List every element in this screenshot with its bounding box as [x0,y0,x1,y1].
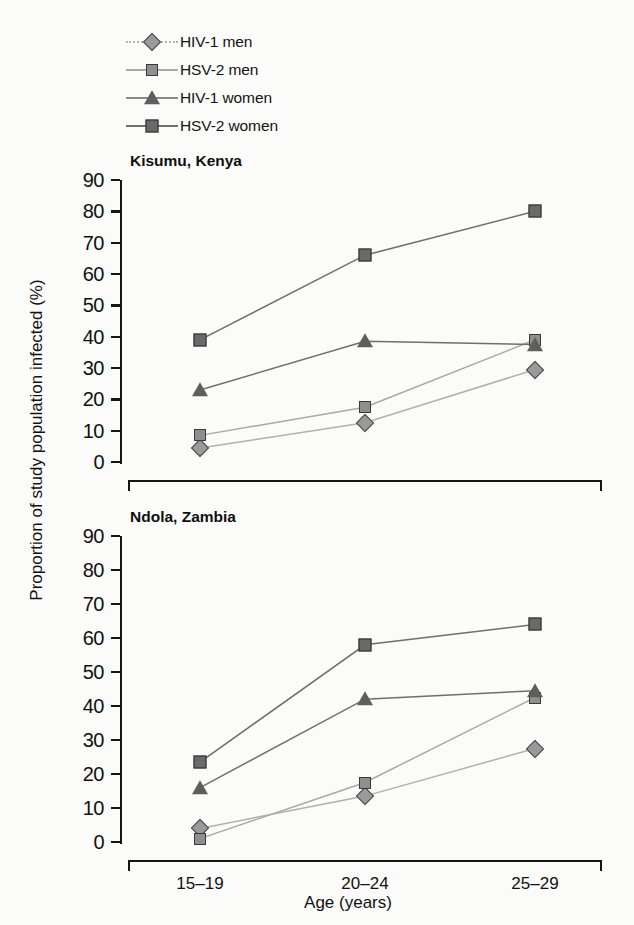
y-axis-tick-label: 70 [64,231,104,254]
datapoint-hiv-1-men-3 [526,360,544,378]
y-axis-tick [111,773,120,775]
y-axis-tick [111,461,120,463]
y-axis-tick-label: 80 [64,200,104,223]
datapoint-hsv-2-women-3 [529,618,542,631]
legend-item-hsv-2-women[interactable]: HSV-2 women [124,112,384,140]
x-axis-line [128,860,602,862]
y-axis-tick [111,179,120,181]
x-axis-end-cap [600,860,602,871]
x-axis-end-cap [128,860,130,871]
legend-marker-triangle-icon [144,90,160,104]
datapoint-hiv-1-women-2 [357,334,373,348]
y-axis-tick-label: 90 [64,169,104,192]
legend-key-1 [124,30,180,54]
y-axis-tick-label: 40 [64,325,104,348]
y-axis-tick [111,603,120,605]
legend-marker-square-icon [146,120,159,133]
y-axis-line [120,536,122,844]
y-axis-tick-label: 0 [64,831,104,854]
legend-marker-square-small-icon [146,64,158,76]
series-line-hsv-2-men [200,698,535,839]
y-axis-tick-label: 80 [64,559,104,582]
y-axis-tick [111,398,120,400]
panel-title-ndola: Ndola, Zambia [130,508,236,526]
legend-label: HIV-1 men [180,33,252,51]
x-axis-tick-label: 15–19 [145,874,255,894]
y-axis-line [120,180,122,464]
y-axis-tick-label: 10 [64,419,104,442]
y-axis-tick-label: 20 [64,763,104,786]
y-axis-tick [111,367,120,369]
legend-item-hiv-1-men[interactable]: HIV-1 men [124,28,384,56]
y-axis-tick [111,807,120,809]
legend-key-4 [124,114,180,138]
legend-item-hsv-2-men[interactable]: HSV-2 men [124,56,384,84]
y-axis-tick-label: 40 [64,695,104,718]
y-axis-tick-label: 20 [64,388,104,411]
y-axis-tick [111,336,120,338]
series-line-hiv-1-women [200,341,535,390]
y-axis-tick-label: 60 [64,627,104,650]
y-axis-tick-label: 50 [64,294,104,317]
datapoint-hsv-2-men-1 [194,833,206,845]
datapoint-hsv-2-men-1 [194,429,206,441]
y-axis-tick [111,210,120,212]
y-axis-tick [111,671,120,673]
panel-title-kisumu: Kisumu, Kenya [130,152,242,170]
chart-legend: HIV-1 menHSV-2 menHIV-1 womenHSV-2 women [124,28,384,140]
y-axis-tick [111,569,120,571]
datapoint-hiv-1-women-2 [357,691,373,705]
legend-key-2 [124,58,180,82]
y-axis-tick-label: 0 [64,451,104,474]
figure-root: HIV-1 menHSV-2 menHIV-1 womenHSV-2 women… [0,0,634,925]
x-axis-tick-label: 20–24 [310,874,420,894]
datapoint-hiv-1-men-2 [356,787,374,805]
y-axis-tick-label: 50 [64,661,104,684]
x-axis-end-cap [600,480,602,491]
datapoint-hiv-1-women-3 [527,683,543,697]
datapoint-hiv-1-women-1 [192,382,208,396]
y-axis-tick-label: 10 [64,797,104,820]
y-axis-tick [111,705,120,707]
datapoint-hsv-2-women-1 [194,333,207,346]
legend-key-3 [124,86,180,110]
y-axis-tick [111,242,120,244]
y-axis-tick [111,304,120,306]
y-axis-tick [111,535,120,537]
legend-label: HSV-2 women [180,117,278,135]
datapoint-hsv-2-men-2 [359,401,371,413]
y-axis-tick-label: 30 [64,357,104,380]
y-axis-tick [111,739,120,741]
y-axis-tick-label: 70 [64,593,104,616]
y-axis-tick-label: 90 [64,525,104,548]
y-axis-tick-label: 30 [64,729,104,752]
x-axis-tick-label: 25–29 [480,874,590,894]
legend-label: HSV-2 men [180,61,258,79]
datapoint-hsv-2-women-3 [529,205,542,218]
y-axis-title: Proportion of study population infected … [27,220,47,660]
datapoint-hiv-1-men-3 [526,739,544,757]
legend-label: HIV-1 women [180,89,272,107]
series-line-hsv-2-women [200,211,535,339]
legend-marker-diamond-icon [143,33,161,51]
datapoint-hiv-1-men-1 [191,439,209,457]
y-axis-tick [111,273,120,275]
y-axis-tick [111,637,120,639]
y-axis-tick [111,430,120,432]
x-axis-end-cap [128,480,130,491]
y-axis-tick [111,841,120,843]
datapoint-hsv-2-women-1 [194,756,207,769]
datapoint-hiv-1-women-3 [527,337,543,351]
datapoint-hiv-1-women-1 [192,780,208,794]
datapoint-hsv-2-women-2 [359,249,372,262]
datapoint-hsv-2-men-2 [359,777,371,789]
datapoint-hiv-1-men-2 [356,414,374,432]
x-axis-line [128,480,602,482]
y-axis-tick-label: 60 [64,263,104,286]
legend-item-hiv-1-women[interactable]: HIV-1 women [124,84,384,112]
x-axis-title: Age (years) [0,893,634,913]
datapoint-hsv-2-women-2 [359,638,372,651]
